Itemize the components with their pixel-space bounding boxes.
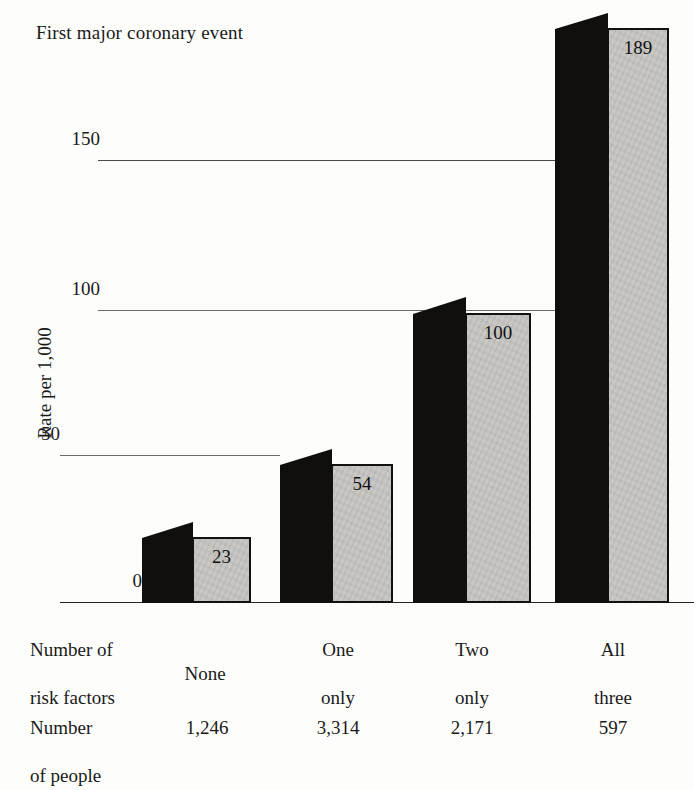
footer-risk-line1: Number of: [30, 638, 115, 662]
y-tick-0: 0: [100, 570, 142, 592]
category-line2: three: [563, 686, 663, 710]
gridline-150: [98, 160, 555, 161]
bar-front-face: 23: [192, 537, 251, 603]
footer-people-line2: of people: [30, 764, 101, 788]
category-line2: only: [288, 686, 388, 710]
y-tick-100: 100: [58, 278, 100, 300]
category-line1: None: [184, 663, 225, 684]
footer-people-line1: Number: [30, 716, 101, 740]
bar-value-label: 100: [467, 322, 529, 344]
y-tick-150: 150: [58, 128, 100, 150]
bar-side-face: [280, 449, 332, 603]
y-tick-50: 50: [18, 423, 60, 445]
people-count-none: 1,246: [152, 716, 262, 740]
people-count-all-three: 597: [563, 716, 663, 740]
people-count-one-only: 3,314: [288, 716, 388, 740]
bar-value-label: 54: [333, 473, 391, 495]
y-axis-label: Rate per 1,000: [34, 293, 56, 473]
bar-value-label: 189: [609, 37, 667, 59]
bar-side-face: [555, 13, 608, 603]
bar-side-face: [142, 522, 193, 603]
category-line1: Two: [422, 638, 522, 662]
category-label-none: None: [150, 638, 260, 686]
bar-none[interactable]: 23: [142, 522, 251, 603]
category-line1: All: [563, 638, 663, 662]
bar-side-face: [413, 297, 466, 603]
bar-front-face: 54: [331, 464, 393, 603]
gridline-50: [60, 455, 280, 456]
bar-all-three[interactable]: 189: [555, 13, 669, 603]
people-count-two-only: 2,171: [422, 716, 522, 740]
bar-two-only[interactable]: 100: [413, 297, 531, 603]
footer-people-label: Number of people: [30, 692, 101, 790]
bar-value-label: 23: [194, 546, 249, 568]
chart-title: First major coronary event: [36, 22, 243, 44]
bar-one-only[interactable]: 54: [280, 449, 393, 603]
category-line2: only: [422, 686, 522, 710]
category-line1: One: [288, 638, 388, 662]
bar-front-face: 100: [465, 313, 531, 603]
bar-front-face: 189: [607, 28, 669, 603]
